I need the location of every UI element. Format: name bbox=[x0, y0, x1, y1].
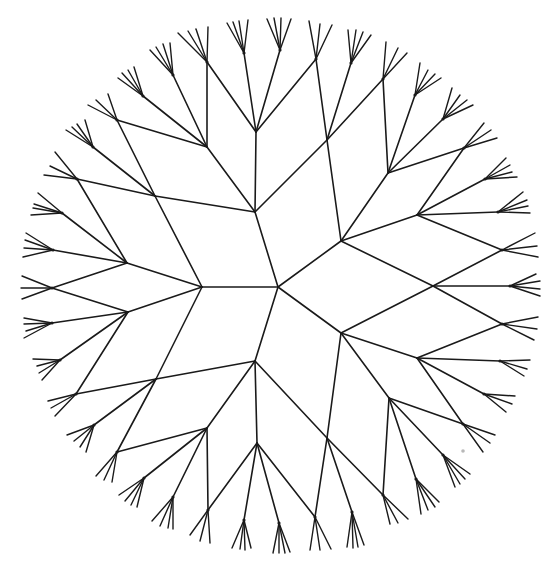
fan-node-dot bbox=[171, 73, 174, 76]
fan-node-dot bbox=[441, 453, 444, 456]
fan-spoke bbox=[310, 517, 315, 550]
fan-node-dot bbox=[75, 177, 78, 180]
fan-spoke bbox=[22, 276, 52, 288]
fan-spoke bbox=[498, 200, 527, 212]
leaf-fan bbox=[119, 476, 146, 507]
tiling-edge bbox=[341, 241, 433, 286]
tiling-edge bbox=[327, 79, 383, 140]
fan-node-dot bbox=[278, 48, 281, 51]
leaf-fan bbox=[381, 42, 407, 81]
leaf-fan bbox=[118, 67, 145, 98]
fan-spoke bbox=[118, 78, 143, 96]
fan-node-dot bbox=[142, 476, 145, 479]
tiling-edge bbox=[117, 120, 155, 196]
fan-node-dot bbox=[50, 286, 53, 289]
fan-spoke bbox=[502, 317, 538, 324]
tiling-edge bbox=[417, 179, 485, 215]
leaf-fan bbox=[33, 358, 62, 380]
fan-spoke bbox=[207, 27, 208, 62]
fan-spoke bbox=[24, 318, 52, 323]
fan-node-dot bbox=[441, 117, 444, 120]
leaf-fan bbox=[67, 423, 96, 452]
fan-spoke bbox=[348, 30, 351, 63]
fan-spoke bbox=[352, 512, 364, 545]
leaf-fan bbox=[31, 193, 64, 215]
tiling-edge bbox=[207, 361, 255, 428]
tiling-edge bbox=[417, 148, 464, 215]
tiling-edge bbox=[255, 287, 278, 361]
tiling-edge bbox=[255, 361, 327, 438]
tiling-edge bbox=[417, 358, 484, 394]
tiling-edge bbox=[417, 358, 463, 424]
tiling-edge bbox=[389, 398, 443, 455]
fan-spoke bbox=[51, 394, 76, 408]
tiling-edge bbox=[117, 379, 156, 452]
tiling-edge bbox=[77, 179, 127, 263]
fan-node-dot bbox=[500, 248, 503, 251]
fan-spoke bbox=[309, 21, 316, 59]
tiling-edge bbox=[341, 215, 417, 241]
leaf-fan bbox=[496, 192, 530, 214]
tiling-edge bbox=[257, 443, 279, 523]
tiling-edge bbox=[417, 324, 502, 358]
fan-node-dot bbox=[242, 51, 245, 54]
fan-node-dot bbox=[91, 145, 94, 148]
leaf-fan bbox=[348, 30, 371, 65]
fan-spoke bbox=[463, 424, 495, 435]
tiling-edge bbox=[383, 79, 388, 173]
tiling-edge bbox=[117, 428, 207, 452]
tiling-edge bbox=[255, 132, 256, 212]
tiling-edge bbox=[388, 95, 415, 173]
fan-node-dot bbox=[413, 93, 416, 96]
leaf-fan bbox=[66, 120, 95, 149]
leaf-fan bbox=[482, 392, 515, 412]
fan-node-dot bbox=[482, 392, 485, 395]
fan-spoke bbox=[77, 124, 93, 147]
fan-spoke bbox=[443, 455, 465, 479]
tiling-edge bbox=[255, 140, 327, 212]
fan-node-dot bbox=[498, 359, 501, 362]
tiling-edge bbox=[341, 286, 433, 333]
fan-node-dot bbox=[141, 94, 144, 97]
fan-spoke bbox=[273, 523, 279, 553]
tiling-edge bbox=[117, 120, 207, 147]
fan-spoke bbox=[23, 250, 53, 257]
fan-spoke bbox=[500, 361, 527, 369]
fan-node-dot bbox=[381, 77, 384, 80]
leaf-fan bbox=[152, 495, 175, 529]
fan-spoke bbox=[31, 213, 62, 215]
leaf-fan bbox=[227, 20, 248, 55]
tiling-edge bbox=[256, 59, 316, 132]
leaf-fan bbox=[273, 521, 290, 553]
tiling-edge bbox=[53, 250, 127, 263]
leaf-fan bbox=[21, 276, 54, 299]
leaf-fan bbox=[23, 233, 55, 257]
fan-node-dot bbox=[462, 146, 465, 149]
tiling-edge bbox=[417, 212, 498, 215]
tiling-edge bbox=[278, 287, 341, 333]
fan-node-dot bbox=[350, 510, 353, 513]
fan-node-dot bbox=[58, 358, 61, 361]
fan-spoke bbox=[55, 152, 77, 179]
speck-mark bbox=[461, 449, 465, 453]
leaf-fan bbox=[441, 88, 473, 121]
tiling-edge bbox=[143, 96, 207, 147]
tiling-edge bbox=[433, 250, 502, 286]
fan-spoke bbox=[500, 361, 524, 376]
leaf-fan bbox=[414, 477, 439, 514]
speck-dot bbox=[461, 449, 465, 453]
fan-spoke bbox=[22, 288, 52, 299]
fan-spoke bbox=[498, 212, 530, 213]
leaf-fan bbox=[44, 152, 79, 181]
tiling-edge bbox=[255, 212, 278, 287]
fan-spoke bbox=[464, 130, 491, 148]
tiling-edge bbox=[389, 398, 416, 479]
fan-spoke bbox=[484, 394, 506, 412]
tiling-edge bbox=[173, 75, 207, 147]
fan-node-dot bbox=[313, 515, 316, 518]
tiling-edge bbox=[257, 443, 315, 517]
fan-spoke bbox=[67, 425, 94, 435]
fan-node-dot bbox=[205, 60, 208, 63]
fan-node-dot bbox=[115, 118, 118, 121]
tiling-edge bbox=[207, 428, 208, 510]
